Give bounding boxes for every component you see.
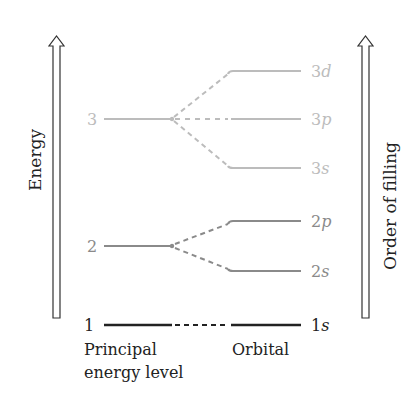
level-2-label: 2 <box>87 237 97 256</box>
connector-2p <box>175 224 228 244</box>
order-of-filling-label: Order of filling <box>380 142 400 270</box>
order-of-filling-arrow <box>358 36 373 318</box>
connector-3d <box>174 74 228 117</box>
orbital-3p-label: 3p <box>311 110 331 129</box>
arrow-up-icon <box>358 36 373 318</box>
orbital-3s-line <box>228 166 301 168</box>
connector-2s <box>175 248 228 269</box>
energy-arrow <box>49 36 64 318</box>
orbital-3d-line <box>228 71 301 74</box>
arrow-up-icon <box>49 36 64 318</box>
branch-point <box>170 117 174 121</box>
level-3-label: 3 <box>87 110 97 129</box>
orbital-column-label: Orbital <box>232 340 289 359</box>
orbital-2s-line <box>228 269 301 271</box>
level-2-group: 2 2p 2s <box>87 212 331 281</box>
level-1-group: 1 1s <box>84 316 329 335</box>
branch-point <box>170 244 174 248</box>
energy-level-diagram: Energy Order of filling 3 3d 3p 3s 2 2p … <box>0 0 420 400</box>
orbital-2p-label: 2p <box>311 212 331 231</box>
orbital-2s-label: 2s <box>311 262 329 281</box>
level-1-label: 1 <box>84 316 94 335</box>
connector-3s <box>174 121 228 166</box>
principal-label-line2: energy level <box>84 363 183 382</box>
orbital-2p-line <box>228 221 301 224</box>
orbital-3s-label: 3s <box>311 159 329 178</box>
principal-label-line1: Principal <box>84 340 157 359</box>
energy-axis-label: Energy <box>25 129 45 191</box>
orbital-1s-label: 1s <box>311 316 329 335</box>
orbital-3d-label: 3d <box>311 62 331 81</box>
level-3-group: 3 3d 3p 3s <box>87 62 331 178</box>
